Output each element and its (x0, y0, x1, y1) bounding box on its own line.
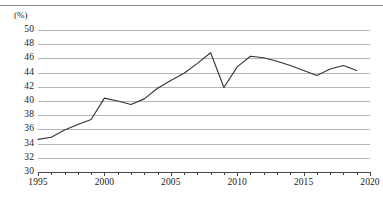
y-tick-label-42: 42 (24, 82, 34, 92)
x-tick-label-2020: 2020 (360, 178, 379, 188)
x-tick-1995 (38, 172, 39, 176)
x-tick-2012 (264, 172, 265, 175)
y-tick-label-34: 34 (24, 139, 34, 149)
x-tick-2015 (304, 172, 305, 176)
x-tick-2013 (277, 172, 278, 175)
y-tick-label-46: 46 (24, 54, 34, 64)
x-tick-label-1995: 1995 (28, 178, 47, 188)
x-tick-2017 (330, 172, 331, 175)
x-tick-2016 (317, 172, 318, 175)
gridline-30 (38, 172, 370, 173)
y-tick-label-38: 38 (24, 110, 34, 120)
x-tick-label-2000: 2000 (95, 178, 114, 188)
x-tick-1998 (78, 172, 79, 175)
x-tick-label-2015: 2015 (294, 178, 313, 188)
y-tick-label-48: 48 (24, 39, 34, 49)
x-tick-2020 (370, 172, 371, 176)
x-tick-2018 (343, 172, 344, 175)
x-tick-2009 (224, 172, 225, 175)
y-tick-label-32: 32 (24, 153, 34, 163)
x-tick-2001 (118, 172, 119, 175)
x-tick-2007 (197, 172, 198, 175)
x-tick-2003 (144, 172, 145, 175)
x-tick-1996 (51, 172, 52, 175)
x-tick-2008 (211, 172, 212, 175)
x-tick-2002 (131, 172, 132, 175)
y-tick-label-40: 40 (24, 96, 34, 106)
y-tick-label-36: 36 (24, 125, 34, 135)
figure-top-rule (0, 5, 383, 6)
x-tick-2006 (184, 172, 185, 175)
y-tick-label-30: 30 (24, 167, 34, 177)
y-axis-unit-label: (%) (14, 11, 28, 20)
x-tick-1999 (91, 172, 92, 175)
x-tick-2011 (250, 172, 251, 175)
y-tick-label-50: 50 (24, 25, 34, 35)
series-polyline (38, 53, 357, 140)
chart-figure: (%) 5048464442403836343230 1995200020052… (0, 0, 383, 203)
plot-area: 5048464442403836343230 19952000200520102… (38, 30, 370, 172)
x-tick-2010 (237, 172, 238, 176)
x-tick-2004 (158, 172, 159, 175)
x-tick-label-2010: 2010 (227, 178, 246, 188)
x-tick-2014 (290, 172, 291, 175)
data-series-line (38, 30, 370, 172)
y-tick-label-44: 44 (24, 68, 34, 78)
x-tick-2000 (104, 172, 105, 176)
x-tick-2019 (357, 172, 358, 175)
x-tick-1997 (65, 172, 66, 175)
x-tick-label-2005: 2005 (161, 178, 180, 188)
x-tick-2005 (171, 172, 172, 176)
